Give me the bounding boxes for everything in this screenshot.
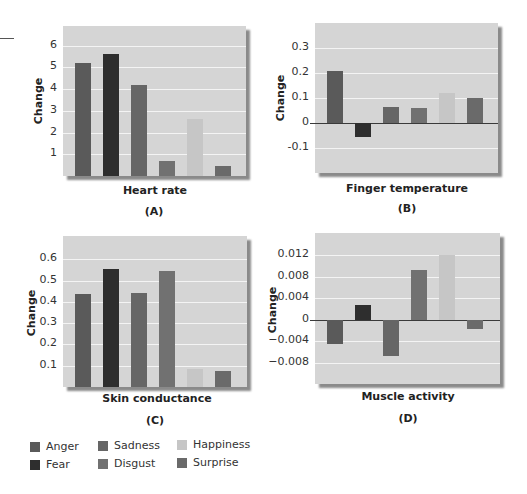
legend-label: Happiness — [193, 438, 250, 451]
heart-rate-y-axis-label: Change — [33, 71, 45, 131]
legend-item-surprise: Surprise — [177, 456, 239, 469]
legend-label: Surprise — [193, 456, 239, 469]
finger-temperature-x-axis-label: Finger temperature — [307, 182, 507, 195]
y-tick-label: 0 — [259, 313, 309, 325]
bar-disgust — [159, 271, 175, 387]
bar-anger — [327, 320, 343, 344]
y-tick-label: 0.2 — [7, 337, 57, 349]
skin-conductance-y-axis-label: Change — [26, 283, 38, 343]
y-tick-label: 0.6 — [7, 252, 57, 264]
zero-axis-line — [310, 123, 498, 124]
bar-anger — [75, 63, 91, 176]
disgust-swatch-icon — [98, 459, 108, 469]
legend-item-disgust: Disgust — [98, 457, 155, 470]
gridline — [315, 277, 500, 278]
y-tick-label: 0.1 — [7, 359, 57, 371]
bar-fear — [103, 54, 119, 176]
fear-swatch-icon — [30, 460, 40, 470]
bar-sadness — [131, 293, 147, 387]
skin-conductance-plot-area — [63, 236, 247, 387]
y-tick-label: 0.004 — [259, 291, 309, 303]
legend-item-anger: Anger — [30, 440, 79, 453]
y-tick-label: 0.3 — [7, 316, 57, 328]
panel-label-b: (B) — [377, 202, 437, 215]
y-tick-label: 0.3 — [259, 41, 309, 53]
y-tick-label: 0.5 — [7, 274, 57, 286]
gridline — [315, 48, 498, 49]
bar-sadness — [383, 320, 399, 356]
bar-happiness — [439, 255, 455, 320]
heart-rate-plot-area — [63, 26, 246, 176]
legend-item-sadness: Sadness — [98, 439, 160, 452]
bar-fear — [355, 305, 371, 320]
y-tick-label: 2 — [7, 126, 57, 138]
bar-fear — [355, 123, 371, 137]
finger-temperature-plot-area — [315, 23, 498, 173]
muscle-activity-x-axis-label: Muscle activity — [308, 390, 508, 403]
legend-label: Anger — [46, 440, 79, 453]
bar-sadness — [383, 107, 399, 123]
y-tick-label: 0.012 — [259, 248, 309, 260]
heart-rate-x-axis-label: Heart rate — [55, 184, 255, 197]
gridline — [63, 281, 247, 282]
muscle-activity-plot-area — [315, 233, 500, 384]
y-tick-label: 4 — [7, 82, 57, 94]
gridline — [63, 46, 246, 47]
legend-label: Fear — [46, 458, 70, 471]
bar-happiness — [439, 93, 455, 123]
gridline — [315, 255, 500, 256]
y-tick-label: -0.1 — [259, 141, 309, 153]
bar-happiness — [187, 369, 203, 387]
legend-label: Disgust — [114, 457, 155, 470]
bar-anger — [327, 71, 343, 123]
gridline — [63, 259, 247, 260]
bar-anger — [75, 294, 91, 387]
y-tick-label: 5 — [7, 60, 57, 72]
skin-conductance-x-axis-label: Skin conductance — [57, 392, 257, 405]
muscle-activity-y-axis-label: Change — [267, 280, 279, 340]
y-tick-label: 0.008 — [259, 270, 309, 282]
surprise-swatch-icon — [177, 458, 187, 468]
y-tick-label: 0.2 — [259, 66, 309, 78]
y-tick-label: −0.008 — [259, 356, 309, 368]
legend-item-fear: Fear — [30, 458, 70, 471]
bar-surprise — [215, 166, 231, 176]
y-tick-label: 0.4 — [7, 295, 57, 307]
anger-swatch-icon — [30, 442, 40, 452]
gridline — [315, 298, 500, 299]
bar-disgust — [159, 161, 175, 176]
panel-label-c: (C) — [125, 414, 185, 427]
bar-happiness — [187, 119, 203, 176]
panel-label-d: (D) — [378, 412, 438, 425]
y-tick-label: 0 — [259, 116, 309, 128]
bar-disgust — [411, 108, 427, 123]
happiness-swatch-icon — [177, 440, 187, 450]
legend-item-happiness: Happiness — [177, 438, 250, 451]
y-tick-label: 0.1 — [259, 91, 309, 103]
y-tick-label: 1 — [7, 147, 57, 159]
bar-sadness — [131, 85, 147, 176]
bar-surprise — [467, 320, 483, 329]
bar-disgust — [411, 270, 427, 320]
gridline — [315, 148, 498, 149]
y-tick-label: −0.004 — [259, 334, 309, 346]
bar-surprise — [215, 371, 231, 387]
bar-fear — [103, 269, 119, 387]
y-tick-label: 3 — [7, 104, 57, 116]
y-tick-label: 6 — [7, 39, 57, 51]
panel-label-a: (A) — [124, 205, 184, 218]
bar-surprise — [467, 98, 483, 123]
gridline — [315, 363, 500, 364]
sadness-swatch-icon — [98, 441, 108, 451]
legend-label: Sadness — [114, 439, 160, 452]
